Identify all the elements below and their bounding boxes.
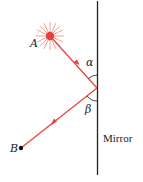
beta-arc [87,96,98,101]
alpha-arc [89,75,98,79]
beta-label: β [85,104,91,115]
reflected-arrow-icon [51,119,58,126]
endpoint-label: B [10,143,18,154]
reflection-diagram [0,0,143,182]
endpoint-b-dot [19,146,23,150]
alpha-label: α [86,57,93,68]
incident-arrow-icon [74,60,80,66]
reflected-ray [21,88,97,148]
mirror-label: Mirror [103,133,132,144]
source-label: A [30,38,38,49]
